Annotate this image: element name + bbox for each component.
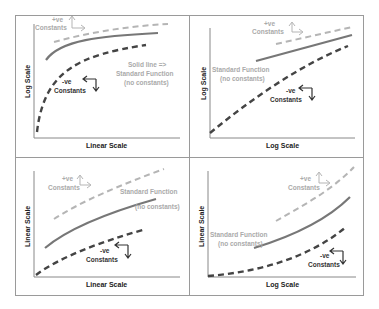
negative-constants-curve [36, 229, 146, 275]
solid-line-note: Solid line => [128, 61, 166, 68]
up-right-arrow-icon [69, 16, 85, 31]
x-axis-label: Linear Scale [86, 142, 127, 149]
x-axis-label: Linear Scale [86, 281, 127, 288]
negative-label-top: -ve [100, 247, 110, 254]
negative-label-bottom: Constants [308, 261, 340, 268]
y-axis-label: Log Scale [24, 65, 32, 98]
standard-function-curve [46, 33, 158, 60]
y-axis-label: Log Scale [200, 67, 208, 100]
positive-label-bottom: Constants [48, 184, 80, 191]
x-axis-label: Log Scale [266, 281, 299, 289]
standard-function-label: Standard Function [210, 231, 267, 238]
negative-label-bottom: Constants [270, 96, 302, 103]
negative-label-top: -ve [320, 252, 330, 259]
panel-top-left: +ve Constants -ve Constants Solid line =… [0, 0, 190, 157]
positive-constants-curve [276, 167, 354, 221]
up-right-arrow-icon [289, 22, 303, 35]
y-axis-label: Linear Scale [198, 206, 205, 247]
negative-label-top: -ve [286, 87, 296, 94]
positive-label-bottom: Constants [252, 28, 284, 35]
negative-label-bottom: Constants [86, 256, 118, 263]
no-constants-note: (no constants) [124, 79, 169, 87]
standard-function-curve [254, 197, 350, 248]
no-constants-label: (no constants) [135, 203, 180, 211]
x-axis-label: Log Scale [266, 142, 299, 150]
positive-label-top: +ve [52, 16, 63, 23]
positive-label-bottom: Constants [288, 184, 320, 191]
standard-function-label: Standard Function [212, 66, 269, 73]
panel-bottom-left: +ve Constants Standard Function (no cons… [0, 157, 190, 309]
positive-label-bottom: Constants [35, 24, 67, 31]
negative-label-top: -ve [62, 78, 72, 85]
negative-constants-curve [210, 46, 348, 133]
standard-function-curve [256, 35, 352, 61]
no-constants-label: (no constants) [218, 240, 263, 248]
positive-label-top: +ve [62, 175, 73, 182]
positive-label-top: +ve [264, 20, 275, 27]
panel-bottom-right: +ve Constants Standard Function (no cons… [190, 157, 379, 309]
y-axis-label: Linear Scale [24, 206, 31, 247]
no-constants-label: (no constants) [220, 75, 265, 83]
standard-function-note: Standard Function [116, 70, 173, 77]
panel-top-right: +ve Constants Standard Function (no cons… [190, 0, 379, 157]
positive-label-top: +ve [300, 175, 311, 182]
negative-label-bottom: Constants [54, 87, 86, 94]
positive-constants-curve [276, 27, 352, 44]
standard-function-label: Standard Function [120, 188, 177, 195]
